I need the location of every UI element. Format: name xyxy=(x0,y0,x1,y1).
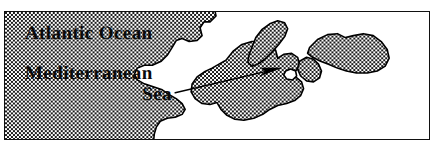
map-figure: Atlantic Ocean Mediterranean Sea xyxy=(0,0,440,147)
map-canvas xyxy=(5,12,429,139)
land-inner-basin xyxy=(284,69,297,80)
map-frame: Atlantic Ocean Mediterranean Sea xyxy=(4,11,430,140)
